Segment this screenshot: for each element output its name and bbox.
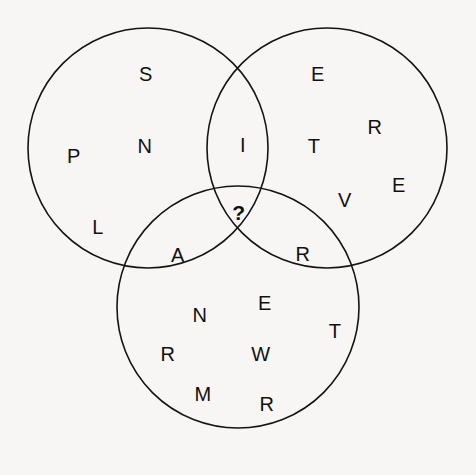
letter-bottom-only-17: T [329, 321, 342, 341]
letter-right-only-6: R [368, 117, 383, 137]
letter-bottom-only-15: R [161, 344, 176, 364]
letter-left-only-2: N [138, 136, 153, 156]
letter-bottom-only-14: E [258, 293, 272, 313]
letter-left-bottom-overlap-11: A [171, 245, 185, 265]
letter-bottom-only-19: R [260, 394, 275, 414]
letter-right-only-7: T [308, 136, 321, 156]
letter-right-only-8: E [392, 175, 406, 195]
letter-right-only-9: V [338, 190, 352, 210]
letter-left-only-1: P [67, 146, 81, 166]
venn-puzzle-canvas: SPNLIERTEV?ARNERWTMR [0, 0, 476, 475]
letter-right-only-5: E [311, 64, 325, 84]
letter-bottom-only-18: M [194, 384, 211, 404]
letter-right-bottom-overlap-12: R [296, 244, 311, 264]
unknown-letter-slot[interactable]: ? [232, 202, 245, 223]
letter-left-right-overlap-4: I [240, 135, 246, 155]
letter-bottom-only-16: W [251, 344, 270, 364]
venn-diagram [0, 0, 476, 475]
letter-left-only-3: L [92, 217, 104, 237]
letter-bottom-only-13: N [193, 305, 208, 325]
letter-left-only-0: S [139, 64, 153, 84]
